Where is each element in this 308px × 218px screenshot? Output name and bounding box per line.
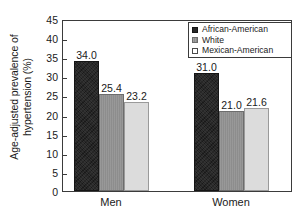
y-axis-tick-labels: 051015202530354045 [36,0,58,218]
bar-value-label: 31.0 [190,62,223,73]
legend-label-african-american: African-American [202,25,268,34]
legend-swatch-icon-african-american [192,27,198,33]
y-tick-mark [63,59,67,60]
y-tick-mark [63,97,67,98]
legend: African-American White Mexican-American [188,22,292,58]
bar-value-label: 34.0 [70,50,103,61]
y-tick-mark [63,40,67,41]
y-axis-tick-40: 40 [36,34,58,44]
legend-item-african-american: African-American [192,25,288,34]
y-axis-title-line-2: hypertension (%) [21,58,34,136]
y-axis-tick-5: 5 [36,168,58,178]
y-axis-title: Age-adjusted prevalence of hypertension … [2,2,40,192]
y-tick-mark [63,136,67,137]
legend-item-white: White [192,36,288,45]
legend-item-mexican-american: Mexican-American [192,46,288,55]
legend-swatch-icon-white [192,37,198,43]
bar-men-mexican-american [124,102,149,191]
bar-men-white [99,94,124,191]
bar-women-african-american [194,73,219,191]
bar-value-label: 21.6 [240,97,273,108]
legend-label-mexican-american: Mexican-American [202,46,273,55]
bar-women-mexican-american [244,108,269,191]
y-axis-tick-30: 30 [36,72,58,82]
y-axis-tick-35: 35 [36,53,58,63]
bar-chart-figure: Age-adjusted prevalence of hypertension … [0,0,308,218]
y-tick-mark [63,174,67,175]
y-axis-tick-15: 15 [36,130,58,140]
y-tick-mark [63,155,67,156]
y-tick-mark [63,78,67,79]
y-axis-tick-25: 25 [36,91,58,101]
y-axis-tick-20: 20 [36,111,58,121]
y-axis-tick-10: 10 [36,149,58,159]
x-axis-label-women: Women [193,196,269,208]
legend-label-white: White [202,36,224,45]
y-axis-tick-45: 45 [36,15,58,25]
y-axis-tick-0: 0 [36,187,58,197]
y-tick-mark [63,117,67,118]
bar-men-african-american [74,61,99,191]
legend-swatch-icon-mexican-american [192,48,198,54]
y-axis-title-line-1: Age-adjusted prevalence of [8,34,21,159]
bar-value-label: 23.2 [120,91,153,102]
x-axis-label-men: Men [73,196,149,208]
bar-women-white [219,111,244,191]
